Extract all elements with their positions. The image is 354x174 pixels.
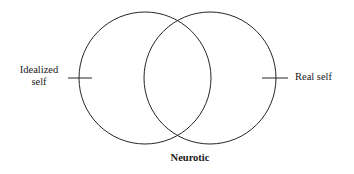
real-self-circle [144,12,276,144]
idealized-self-label-line2: self [0,76,78,88]
idealized-self-label-line1: Idealized [0,64,78,76]
venn-diagram-canvas: Idealized self Real self Neurotic [0,0,354,174]
idealized-self-label: Idealized self [0,64,78,88]
real-self-label: Real self [295,71,332,83]
neurotic-label: Neurotic [140,152,240,164]
idealized-self-circle [79,12,211,144]
